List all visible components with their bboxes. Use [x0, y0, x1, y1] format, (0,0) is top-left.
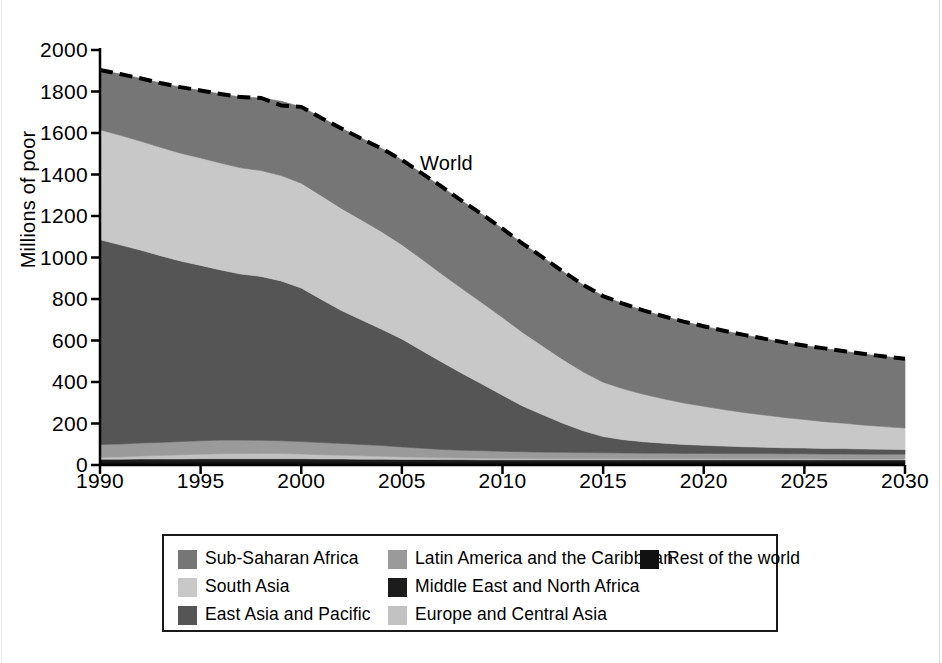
legend-label: South Asia	[205, 578, 290, 596]
x-axis-tick-label: 1995	[156, 470, 246, 491]
legend-swatch-icon	[178, 606, 197, 625]
legend-entry: Rest of the world	[640, 546, 800, 572]
legend-label: Latin America and the Caribbean	[415, 550, 673, 568]
legend-entry: Middle East and North Africa	[388, 574, 673, 600]
x-axis-tick-label: 2005	[357, 470, 447, 491]
x-axis-tick-label: 2020	[659, 470, 749, 491]
plot-area: 2000180016001400120010008006004002000 19…	[0, 0, 942, 520]
legend-label: Middle East and North Africa	[415, 578, 640, 596]
x-axis-tick-label: 1990	[55, 470, 145, 491]
legend-label: Europe and Central Asia	[415, 606, 607, 624]
legend-label: Rest of the world	[667, 550, 800, 568]
chart-legend: Sub-Saharan AfricaSouth AsiaEast Asia an…	[162, 534, 778, 632]
legend-swatch-icon	[388, 606, 407, 625]
y-axis-tick-label: 200	[18, 413, 88, 434]
x-axis-tick-label: 2030	[860, 470, 942, 491]
x-axis-tick-label: 2025	[759, 470, 849, 491]
x-axis-tick-label: 2000	[256, 470, 346, 491]
legend-entry: Sub-Saharan Africa	[178, 546, 371, 572]
poverty-projection-figure: 2000180016001400120010008006004002000 19…	[0, 0, 942, 663]
legend-column-1: Sub-Saharan AfricaSouth AsiaEast Asia an…	[178, 546, 371, 630]
legend-entry: South Asia	[178, 574, 371, 600]
y-axis-title: Millions of poor	[17, 20, 40, 380]
legend-label: Sub-Saharan Africa	[205, 550, 359, 568]
legend-entry: Europe and Central Asia	[388, 602, 673, 628]
legend-swatch-icon	[640, 550, 659, 569]
legend-entry: Latin America and the Caribbean	[388, 546, 673, 572]
legend-column-2: Latin America and the CaribbeanMiddle Ea…	[388, 546, 673, 630]
x-axis-tick-labels: 199019952000200520102015202020252030	[0, 470, 942, 510]
legend-entry: East Asia and Pacific	[178, 602, 371, 628]
legend-swatch-icon	[388, 550, 407, 569]
legend-swatch-icon	[178, 550, 197, 569]
x-axis-tick-label: 2010	[458, 470, 548, 491]
legend-label: East Asia and Pacific	[205, 606, 371, 624]
x-axis-tick-label: 2015	[558, 470, 648, 491]
legend-swatch-icon	[178, 578, 197, 597]
legend-column-3: Rest of the world	[640, 546, 800, 574]
stacked-area-chart	[0, 0, 942, 520]
world-annotation-label: World	[420, 152, 473, 175]
legend-swatch-icon	[388, 578, 407, 597]
